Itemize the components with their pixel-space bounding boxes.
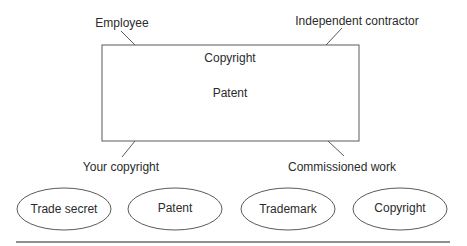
ip-ownership-diagram: Employee Independent contractor Your cop…	[0, 0, 467, 246]
leader-line-independent-contractor	[326, 28, 342, 45]
callout-your-copyright: Your copyright	[83, 160, 159, 174]
ellipse-label-copyright: Copyright	[374, 201, 425, 215]
leader-line-employee	[121, 31, 135, 45]
box-label-patent: Patent	[213, 86, 248, 100]
ellipse-label-patent: Patent	[158, 201, 193, 215]
leader-line-your-copyright	[122, 141, 135, 157]
ellipse-label-trademark: Trademark	[259, 202, 317, 216]
leader-line-commissioned-work	[328, 141, 344, 156]
ellipse-label-trade-secret: Trade secret	[31, 202, 98, 216]
callout-employee: Employee	[95, 16, 148, 30]
box-label-copyright: Copyright	[204, 51, 255, 65]
callout-commissioned-work: Commissioned work	[288, 160, 396, 174]
callout-independent-contractor: Independent contractor	[295, 14, 418, 28]
